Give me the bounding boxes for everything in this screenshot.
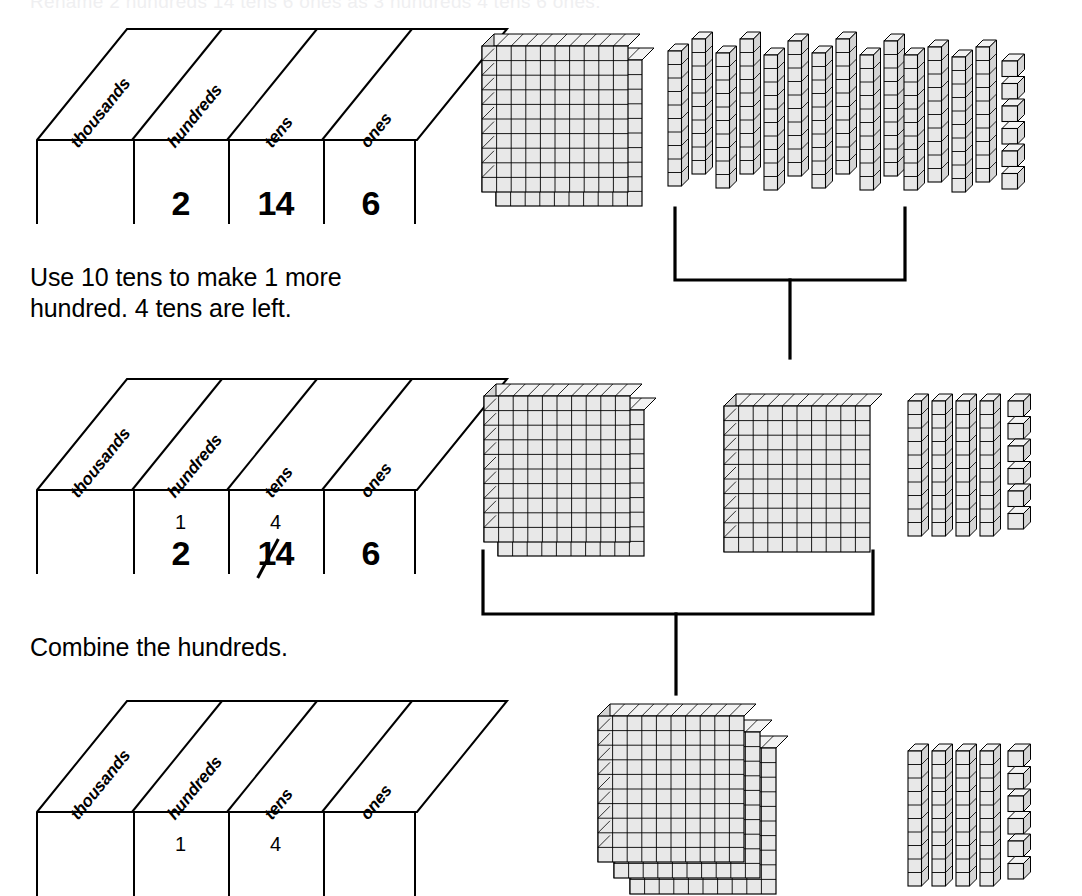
place-value-digit-hundreds: 2 (133, 186, 228, 220)
ones-cubes-initial (1000, 52, 1027, 198)
place-value-chart-regrouped: thousandshundredstensones214614 (36, 378, 416, 574)
place-value-cells: 214614 (36, 490, 416, 574)
place-value-digit-tens: 14 (228, 186, 323, 220)
place-value-header: thousandshundredstensones (36, 28, 416, 140)
instruction-step-2-line1: Combine the hundreds. (30, 632, 430, 663)
place-value-divider (323, 812, 325, 896)
hundreds-flats-final (596, 702, 790, 896)
ones-cubes-final (1006, 742, 1033, 888)
instruction-step-1: Use 10 tens to make 1 more hundred. 4 te… (30, 262, 430, 323)
carry-digit-tens: 4 (228, 834, 323, 854)
tens-rods-final (906, 742, 1013, 888)
place-value-chart-initial: thousandshundredstensones2146 (36, 28, 416, 224)
place-value-digit-ones: 6 (323, 186, 418, 220)
hundreds-new-flat (722, 392, 884, 554)
tens-rods-to-regroup (666, 30, 917, 192)
place-value-cells: 14 (36, 812, 416, 896)
regroup-bracket-tens (672, 205, 908, 361)
carry-digit-hundreds: 1 (133, 512, 228, 532)
carry-digit-tens: 4 (228, 512, 323, 532)
place-value-header: thousandshundredstensones (36, 700, 416, 812)
combine-bracket-hundreds (480, 548, 876, 697)
tens-rods-remainder-initial (902, 38, 1009, 194)
instruction-step-1-line2: hundred. 4 tens are left. (30, 293, 430, 324)
carry-digit-hundreds: 1 (133, 834, 228, 854)
instruction-step-2: Combine the hundreds. (30, 632, 430, 663)
ones-cubes-middle (1006, 392, 1033, 538)
place-value-cells: 2146 (36, 140, 416, 224)
top-cut-text: Rename 2 hundreds 14 tens 6 ones as 3 hu… (30, 0, 1050, 13)
instruction-step-1-line1: Use 10 tens to make 1 more (30, 262, 430, 293)
place-value-divider (133, 812, 135, 896)
place-value-digit-ones: 6 (323, 536, 418, 570)
place-value-chart-final: thousandshundredstensones14 (36, 700, 416, 896)
hundreds-flats-middle (482, 382, 658, 558)
place-value-header: thousandshundredstensones (36, 378, 416, 490)
place-value-digit-hundreds: 2 (133, 536, 228, 570)
hundreds-flats-initial (480, 32, 656, 208)
tens-rods-middle (906, 392, 1013, 538)
place-value-divider (228, 812, 230, 896)
